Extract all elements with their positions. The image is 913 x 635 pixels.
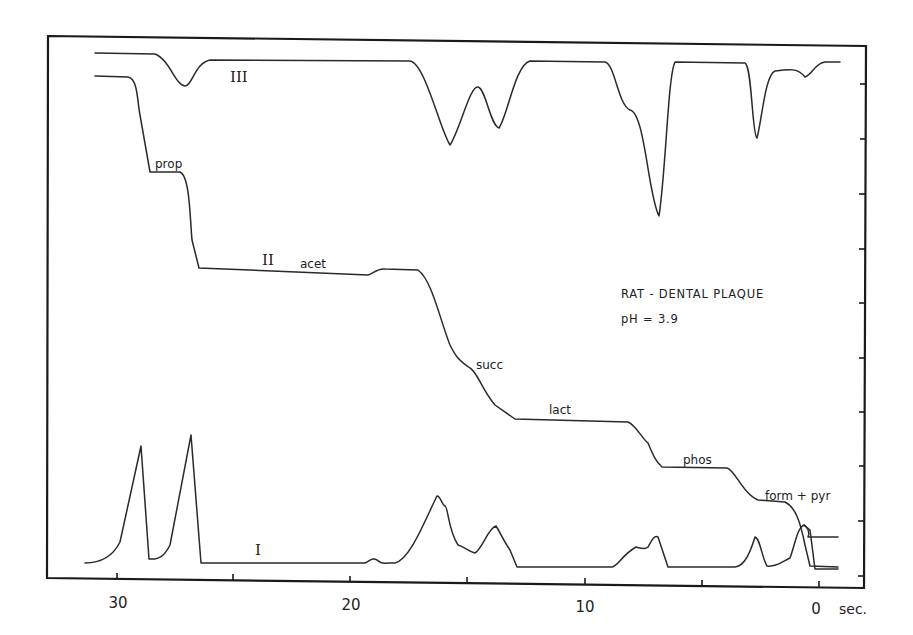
trace-label-III: III <box>230 68 248 86</box>
trace-III-curve <box>95 53 840 216</box>
zone-label-acet: acet <box>300 257 326 271</box>
trace-I-final-step <box>804 525 838 537</box>
x-tick-30: 30 <box>108 594 127 612</box>
trace-label-I: I <box>255 541 261 559</box>
plot-frame <box>47 36 866 588</box>
zone-label-form-pyr: form + pyr <box>765 489 830 503</box>
figure-title: RAT - DENTAL PLAQUE <box>621 287 764 301</box>
trace-I-curve <box>85 435 838 569</box>
chromatogram-figure: 30 20 10 0 sec. III II I prop acet succ … <box>0 0 913 635</box>
x-axis-unit: sec. <box>839 601 867 617</box>
figure-subtitle-ph: pH = 3.9 <box>621 312 679 326</box>
zone-label-succ: succ <box>476 358 503 372</box>
x-tick-10: 10 <box>575 598 594 616</box>
trace-label-II: II <box>262 251 274 269</box>
zone-label-prop: prop <box>155 157 182 171</box>
zone-label-lact: lact <box>549 403 571 417</box>
trace-II-curve <box>95 76 838 567</box>
x-tick-0: 0 <box>811 600 821 618</box>
x-tick-20: 20 <box>341 596 360 614</box>
zone-label-phos: phos <box>683 453 712 467</box>
